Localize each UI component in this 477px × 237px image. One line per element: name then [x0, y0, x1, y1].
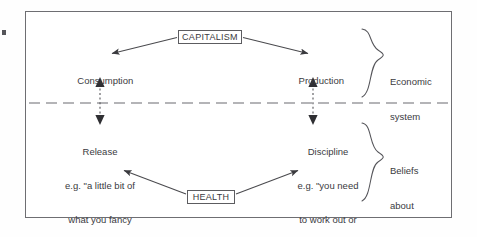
region-caption-beliefs-line-1: Beliefs — [390, 165, 419, 177]
page-edge-mark — [2, 30, 6, 35]
node-release-heading: Release — [34, 146, 166, 157]
node-discipline-example-line-1: e.g. "you need — [262, 180, 394, 191]
node-discipline-heading: Discipline — [262, 146, 394, 157]
figure-canvas: CAPITALISM HEALTH Consumption Production… — [0, 0, 477, 237]
node-discipline: Discipline e.g. "you need to work out or… — [262, 123, 394, 237]
node-release-example-line-1: e.g. "a little bit of — [34, 180, 166, 191]
node-capitalism: CAPITALISM — [178, 30, 242, 44]
node-production: Production — [268, 64, 364, 98]
node-health-label: HEALTH — [193, 192, 230, 202]
node-discipline-example-line-2: to work out or — [262, 214, 394, 225]
region-caption-beliefs-line-3: health — [390, 235, 419, 237]
node-release-example-line-2: what you fancy — [34, 214, 166, 225]
region-caption-economic-system-line-1: Economic — [390, 76, 432, 88]
region-caption-beliefs-about-health: Beliefs about health — [390, 142, 419, 237]
node-consumption-label: Consumption — [77, 75, 133, 86]
node-health: HEALTH — [187, 190, 235, 204]
region-caption-beliefs-line-2: about — [390, 200, 419, 212]
node-production-label: Production — [299, 75, 344, 86]
region-caption-economic-system-line-2: system — [390, 111, 432, 123]
node-release: Release e.g. "a little bit of what you f… — [34, 123, 166, 237]
node-consumption: Consumption — [52, 64, 148, 98]
node-capitalism-label: CAPITALISM — [182, 32, 238, 42]
region-caption-economic-system: Economic system — [390, 53, 432, 146]
